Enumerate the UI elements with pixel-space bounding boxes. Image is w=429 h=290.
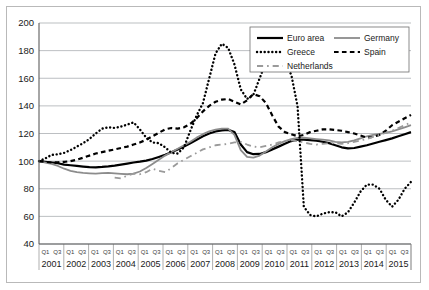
x-axis-quarter-labels: Q1Q3Q1Q3Q1Q3Q1Q3Q1Q3Q1Q3Q1Q3Q1Q3Q1Q3Q1Q3… bbox=[41, 249, 409, 255]
x-quarter-label: Q1 bbox=[41, 249, 50, 255]
x-quarter-label: Q1 bbox=[66, 249, 75, 255]
x-quarter-label: Q1 bbox=[116, 249, 125, 255]
x-quarter-label: Q3 bbox=[277, 249, 286, 255]
x-quarter-label: Q3 bbox=[53, 249, 62, 255]
x-quarter-label: Q1 bbox=[265, 249, 274, 255]
x-year-label: 2001 bbox=[41, 259, 61, 269]
legend-label-spain[interactable]: Spain bbox=[364, 47, 386, 57]
x-quarter-label: Q3 bbox=[252, 249, 261, 255]
x-quarter-label: Q3 bbox=[227, 249, 236, 255]
x-quarter-label: Q3 bbox=[128, 249, 137, 255]
x-quarter-label: Q1 bbox=[389, 249, 398, 255]
x-quarter-label: Q1 bbox=[190, 249, 199, 255]
legend-label-greece[interactable]: Greece bbox=[287, 47, 315, 57]
x-quarter-label: Q3 bbox=[78, 249, 87, 255]
y-tick-label: 40 bbox=[23, 238, 34, 249]
y-tick-label: 60 bbox=[23, 211, 34, 222]
x-quarter-label: Q1 bbox=[240, 249, 249, 255]
x-quarter-label: Q3 bbox=[153, 249, 162, 255]
y-tick-label: 180 bbox=[18, 45, 34, 56]
x-year-label: 2011 bbox=[290, 259, 309, 269]
x-year-label: 2014 bbox=[364, 259, 384, 269]
x-year-label: 2006 bbox=[165, 259, 185, 269]
x-quarter-label: Q1 bbox=[339, 249, 348, 255]
x-year-label: 2004 bbox=[116, 259, 136, 269]
legend-label-netherlands[interactable]: Netherlands bbox=[287, 61, 333, 71]
x-quarter-label: Q3 bbox=[177, 249, 186, 255]
x-year-label: 2003 bbox=[91, 259, 111, 269]
y-tick-label: 140 bbox=[18, 100, 34, 111]
chart-container: 406080100120140160180200 Q1Q3Q1Q3Q1Q3Q1Q… bbox=[6, 6, 421, 283]
x-quarter-label: Q1 bbox=[91, 249, 100, 255]
x-year-label: 2009 bbox=[240, 259, 260, 269]
x-quarter-label: Q3 bbox=[202, 249, 211, 255]
x-quarter-label: Q1 bbox=[364, 249, 373, 255]
y-tick-label: 120 bbox=[18, 128, 34, 139]
legend[interactable]: Euro areaGermanyGreeceSpainNetherlands bbox=[250, 27, 409, 72]
x-quarter-label: Q1 bbox=[289, 249, 298, 255]
legend-label-euro-area[interactable]: Euro area bbox=[287, 33, 325, 43]
legend-label-germany[interactable]: Germany bbox=[364, 33, 400, 43]
x-year-label: 2015 bbox=[389, 259, 409, 269]
x-year-label: 2010 bbox=[265, 259, 285, 269]
x-quarter-label: Q3 bbox=[301, 249, 310, 255]
x-year-label: 2013 bbox=[339, 259, 359, 269]
x-quarter-label: Q1 bbox=[215, 249, 224, 255]
x-quarter-label: Q1 bbox=[314, 249, 323, 255]
y-tick-label: 160 bbox=[18, 73, 34, 84]
y-tick-label: 100 bbox=[18, 156, 34, 167]
x-year-label: 2005 bbox=[141, 259, 161, 269]
x-quarter-label: Q3 bbox=[351, 249, 360, 255]
y-tick-label: 80 bbox=[23, 183, 34, 194]
series-line-netherlands bbox=[115, 122, 411, 178]
x-quarter-label: Q3 bbox=[326, 249, 335, 255]
x-quarter-label: Q1 bbox=[165, 249, 174, 255]
x-year-label: 2012 bbox=[314, 259, 334, 269]
line-chart: 406080100120140160180200 Q1Q3Q1Q3Q1Q3Q1Q… bbox=[7, 7, 420, 282]
x-quarter-label: Q3 bbox=[401, 249, 410, 255]
x-quarter-label: Q3 bbox=[376, 249, 385, 255]
x-axis-year-labels: 2001200220032004200520062007200820092010… bbox=[41, 259, 408, 269]
y-axis-tick-labels: 406080100120140160180200 bbox=[18, 17, 34, 249]
x-year-label: 2002 bbox=[66, 259, 86, 269]
x-year-label: 2008 bbox=[215, 259, 235, 269]
x-quarter-label: Q3 bbox=[103, 249, 112, 255]
y-tick-label: 200 bbox=[18, 17, 34, 28]
x-quarter-label: Q1 bbox=[141, 249, 150, 255]
x-year-label: 2007 bbox=[190, 259, 210, 269]
